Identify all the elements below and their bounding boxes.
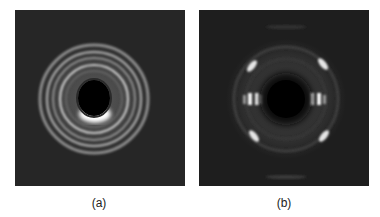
oriented-pattern-image <box>199 10 369 186</box>
diffraction-panel-b <box>199 10 369 186</box>
diffraction-panel-a <box>15 10 185 186</box>
ring-pattern-image <box>15 10 185 186</box>
panel-a-label: (a) <box>79 196 119 210</box>
panel-b-label: (b) <box>264 196 304 210</box>
